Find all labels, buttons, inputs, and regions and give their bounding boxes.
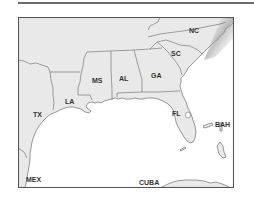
label-tx: TX	[33, 111, 42, 118]
label-la: LA	[65, 98, 74, 105]
label-sc: SC	[171, 50, 181, 57]
map-svg: NC SC GA AL MS LA TX FL BAH MEX CUBA	[18, 17, 234, 188]
label-mex: MEX	[26, 176, 42, 183]
label-nc: NC	[189, 27, 199, 34]
label-fl: FL	[172, 110, 181, 117]
top-divider-rule	[18, 2, 254, 4]
lake-okeechobee	[186, 112, 191, 118]
label-al: AL	[119, 75, 129, 82]
label-bah: BAH	[215, 121, 230, 128]
label-cuba: CUBA	[139, 179, 159, 186]
label-ms: MS	[92, 77, 103, 84]
label-ga: GA	[151, 72, 162, 79]
southeast-us-map: NC SC GA AL MS LA TX FL BAH MEX CUBA	[18, 17, 234, 188]
